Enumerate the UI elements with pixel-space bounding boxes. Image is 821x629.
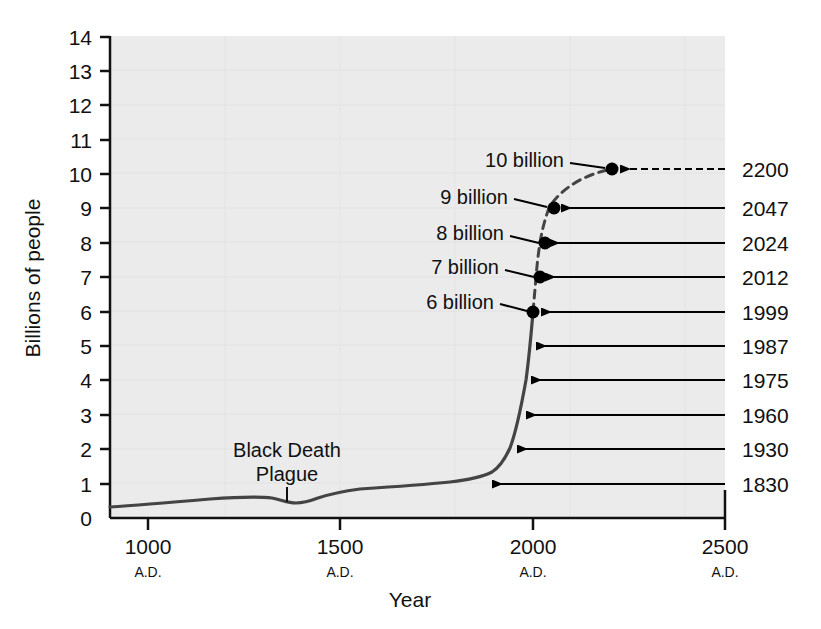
black-death-label-line1: Black Death bbox=[233, 439, 341, 461]
black-death-label-line2: Plague bbox=[256, 463, 318, 485]
x-tick-label-2000: 2000 bbox=[510, 535, 557, 558]
year-label-1930: 1930 bbox=[742, 438, 789, 461]
y-tick-label-9: 9 bbox=[80, 197, 92, 220]
chart-canvas: 14 13 12 11 10 9 8 7 6 5 4 3 2 1 0 1000 … bbox=[0, 0, 821, 629]
y-axis-title: Billions of people bbox=[21, 199, 44, 358]
x-era-label-1000: A.D. bbox=[134, 564, 161, 580]
y-tick-label-8: 8 bbox=[80, 232, 92, 255]
y-tick-label-4: 4 bbox=[80, 369, 92, 392]
y-tick-label-12: 12 bbox=[69, 94, 92, 117]
marker-label-8-billion: 8 billion bbox=[436, 222, 504, 244]
marker-dot-6-billion bbox=[527, 306, 540, 319]
marker-dot-8-billion bbox=[539, 237, 552, 250]
y-tick-label-3: 3 bbox=[80, 404, 92, 427]
y-tick-label-5: 5 bbox=[80, 335, 92, 358]
x-tick-label-1000: 1000 bbox=[125, 535, 172, 558]
y-tick-label-2: 2 bbox=[80, 438, 92, 461]
marker-label-10-billion: 10 billion bbox=[485, 149, 564, 171]
y-tick-label-14: 14 bbox=[69, 26, 93, 49]
y-tick-label-7: 7 bbox=[80, 266, 92, 289]
year-label-2200: 2200 bbox=[742, 158, 789, 181]
y-tick-label-13: 13 bbox=[69, 60, 92, 83]
year-label-1987: 1987 bbox=[742, 335, 789, 358]
year-label-1960: 1960 bbox=[742, 404, 789, 427]
y-tick-marks bbox=[100, 37, 110, 484]
y-tick-label-1: 1 bbox=[80, 473, 92, 496]
x-tick-label-1500: 1500 bbox=[317, 535, 364, 558]
marker-label-7-billion: 7 billion bbox=[431, 256, 499, 278]
x-tick-marks bbox=[148, 518, 725, 530]
x-axis-title: Year bbox=[389, 588, 431, 611]
y-tick-label-6: 6 bbox=[80, 301, 92, 324]
year-label-2047: 2047 bbox=[742, 197, 789, 220]
x-tick-label-2500: 2500 bbox=[702, 535, 749, 558]
x-era-label-1500: A.D. bbox=[326, 564, 353, 580]
y-tick-label-11: 11 bbox=[70, 129, 92, 152]
marker-dot-9-billion bbox=[548, 202, 561, 215]
year-label-1830: 1830 bbox=[742, 473, 789, 496]
marker-label-6-billion: 6 billion bbox=[426, 291, 494, 313]
population-growth-chart: 14 13 12 11 10 9 8 7 6 5 4 3 2 1 0 1000 … bbox=[0, 0, 821, 629]
y-tick-label-0: 0 bbox=[80, 507, 92, 530]
x-era-label-2500: A.D. bbox=[711, 564, 738, 580]
marker-label-9-billion: 9 billion bbox=[440, 186, 508, 208]
year-label-1975: 1975 bbox=[742, 369, 789, 392]
year-label-2024: 2024 bbox=[742, 232, 789, 255]
x-era-label-2000: A.D. bbox=[519, 564, 546, 580]
year-label-2012: 2012 bbox=[742, 266, 789, 289]
year-label-1999: 1999 bbox=[742, 301, 789, 324]
y-tick-label-10: 10 bbox=[69, 163, 92, 186]
marker-dot-7-billion bbox=[534, 271, 547, 284]
marker-dot-10-billion bbox=[606, 163, 619, 176]
